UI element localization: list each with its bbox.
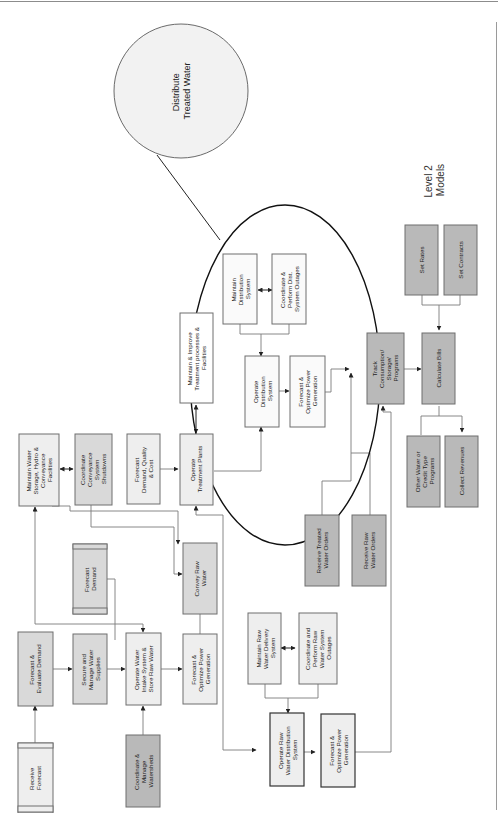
svg-text:Coordinate & Perform Dis: Coordinate & Perform Dist. System Outage… — [279, 266, 300, 312]
node-maintain-distribution[interactable]: Maintain Distribution System — [223, 254, 257, 324]
svg-text:Receive Raw Water Orders: Receive Raw Water Orders — [362, 531, 376, 569]
svg-text:Set Contracts: Set Contracts — [457, 241, 464, 279]
node-maintain-improve-treatment[interactable]: Maintain & Improve Treatment processes &… — [180, 313, 213, 403]
svg-text:Collect Revenues: Collect Revenues — [458, 447, 465, 496]
svg-text:Operate Water Intake Sys: Operate Water Intake System & Store Raw … — [133, 646, 154, 693]
node-receive-treated-water-orders[interactable]: Receive Treated Water Orders — [305, 515, 339, 586]
node-forecast-demand-quality-cost[interactable]: Forecast Demand, Quality & Cost — [127, 434, 160, 504]
node-forecast-demand[interactable]: Forecast Demand — [73, 544, 107, 614]
node-receive-raw-water-orders[interactable]: Receive Raw Water Orders — [352, 515, 386, 586]
node-forecast-optimize-power-3[interactable]: Forecast & Optimize Power Generation — [290, 356, 325, 427]
title-line-1: Level 2 — [423, 165, 434, 198]
node-coordinate-manage-watersheds[interactable]: Coordinate & Manage Watersheds — [126, 735, 160, 807]
node-operate-distribution[interactable]: Operate Distribution System — [245, 356, 279, 427]
node-forecast-optimize-power-1[interactable]: Forecast & Optimize Power Generation — [183, 634, 217, 704]
title-line-2: Models — [435, 164, 446, 196]
svg-text:Receive Treated Water Or: Receive Treated Water Orders — [315, 527, 329, 574]
node-coordinate-raw-water-outages[interactable]: Coordinate and Perform Raw Water System … — [299, 613, 337, 684]
svg-text:Distribute Treated Water: Distribute Treated Water — [171, 63, 192, 120]
node-convey-raw-water[interactable]: Convey Raw Water — [183, 543, 217, 614]
node-coordinate-dist-outages[interactable]: Coordinate & Perform Dist. System Outage… — [272, 254, 306, 324]
process-flow-diagram: Distribute Treated Water Level 2 Models … — [0, 0, 498, 813]
node-forecast-evaluate-demand[interactable]: Forecast & Evaluate Demand — [18, 632, 53, 706]
node-set-rates[interactable]: Set Rates — [405, 225, 438, 295]
svg-text:Calculate Bills: Calculate Bills — [435, 349, 442, 388]
diagram-title: Level 2 Models — [423, 162, 446, 197]
node-maintain-water-storage[interactable]: Maintain Water Storage, Hydro & Conveyan… — [19, 434, 59, 506]
node-coordinate-conveyance-shutdowns[interactable]: Coordinate Conveyance System Shutdowns — [75, 434, 112, 505]
node-receive-forecast[interactable]: Receive Forecast — [18, 743, 53, 813]
node-collect-revenues[interactable]: Collect Revenues — [445, 436, 478, 507]
node-operate-water-intake[interactable]: Operate Water Intake System & Store Raw … — [126, 633, 161, 705]
node-calculate-bills[interactable]: Calculate Bills — [422, 333, 455, 404]
node-operate-raw-water-distribution[interactable]: Operate Raw Water Distribution System — [270, 713, 304, 786]
svg-text:Set Rates: Set Rates — [418, 246, 425, 273]
node-set-contracts[interactable]: Set Contracts — [444, 225, 477, 295]
node-operate-treatment-plants[interactable]: Operate Treatment Plants — [180, 434, 213, 505]
svg-text:Forecast Demand: Forecast Demand — [83, 566, 97, 592]
svg-text:Receive Forecast: Receive Forecast — [28, 766, 42, 790]
node-other-water-credit[interactable]: Other Water or Credit Type Programs — [407, 436, 440, 507]
callout-line-2: Treated Water — [182, 63, 192, 120]
callout-circle: Distribute Treated Water — [114, 24, 248, 158]
node-track-consumption[interactable]: Track Consumption/ Storage/ Programs — [367, 333, 404, 404]
node-maintain-raw-water-delivery[interactable]: Maintain Raw Water Delivery System — [248, 613, 281, 684]
node-secure-manage-water-supplies[interactable]: Secure and Manage Water Supplies — [73, 634, 107, 704]
callout-line-1: Distribute — [171, 73, 181, 111]
node-forecast-optimize-power-2[interactable]: Forecast & Optimize Power Generation — [321, 714, 355, 787]
